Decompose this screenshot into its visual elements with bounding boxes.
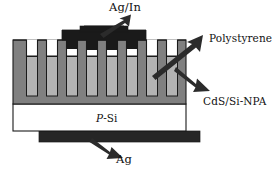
top-electrode-cap	[80, 26, 128, 32]
label-ag-bottom: Ag	[116, 154, 132, 166]
label-polystyrene: Polystyrene	[209, 33, 272, 44]
bottom-electrode-ag	[39, 131, 200, 142]
label-p-si: P-Si	[96, 113, 118, 124]
label-p-si-suffix: -Si	[103, 112, 117, 124]
device-cross-section-svg	[0, 0, 273, 171]
label-ag-in: Ag/In	[109, 2, 141, 14]
label-cds-si-npa: CdS/Si-NPA	[203, 96, 266, 107]
figure-canvas: Ag/In Polystyrene CdS/Si-NPA Ag P-Si	[0, 0, 273, 171]
